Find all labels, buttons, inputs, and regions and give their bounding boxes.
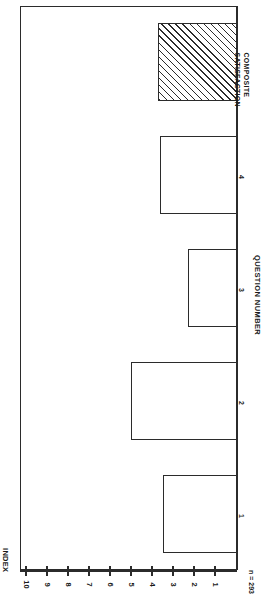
bar-question-4: [160, 136, 237, 214]
bar-question-2: [131, 362, 237, 440]
category-label-1: 1: [237, 514, 245, 518]
bar-composite-satisfaction: [158, 23, 237, 101]
index-tick-label-7: 7: [85, 579, 94, 591]
index-tick-10: [25, 566, 26, 576]
index-tick-3: [172, 566, 173, 576]
index-tick-8: [67, 566, 68, 576]
bar-question-1: [163, 475, 238, 553]
index-axis-title: INDEX: [1, 548, 10, 572]
index-tick-label-10: 10: [22, 579, 31, 591]
index-axis-line: [20, 570, 237, 572]
category-label-composite-satisfaction: COMPOSITE SATISFACTION: [233, 53, 250, 107]
index-tick-label-8: 8: [64, 579, 73, 591]
index-tick-6: [109, 566, 110, 576]
index-tick-label-4: 4: [148, 579, 157, 591]
index-tick-label-5: 5: [127, 579, 136, 591]
category-label-2: 2: [237, 401, 245, 405]
index-tick-label-1: 1: [211, 579, 220, 591]
index-tick-label-2: 2: [190, 579, 199, 591]
category-label-composite-line1: COMPOSITE: [241, 53, 250, 107]
category-label-4: 4: [237, 175, 245, 179]
index-tick-label-6: 6: [106, 579, 115, 591]
index-tick-label-3: 3: [169, 579, 178, 591]
index-tick-7: [88, 566, 89, 576]
index-tick-1: [214, 566, 215, 576]
index-tick-2: [193, 566, 194, 576]
index-tick-9: [46, 566, 47, 576]
sample-size-annotation: n = 293: [248, 570, 255, 594]
category-label-3: 3: [237, 288, 245, 292]
index-tick-4: [151, 566, 152, 576]
index-tick-label-9: 9: [43, 579, 52, 591]
question-axis-title: QUESTION NUMBER: [253, 255, 262, 335]
category-label-composite-line2: SATISFACTION: [233, 53, 242, 107]
index-tick-5: [130, 566, 131, 576]
bar-question-3: [188, 249, 237, 327]
